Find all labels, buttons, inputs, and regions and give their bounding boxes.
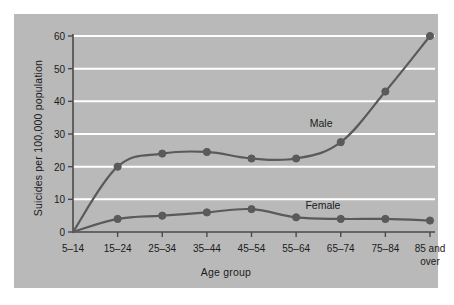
data-point-female-1 [114, 215, 121, 222]
series-annotation-male: Male [310, 117, 333, 129]
data-point-male-6 [337, 139, 344, 146]
data-point-female-7 [382, 215, 389, 222]
data-point-female-2 [159, 212, 166, 219]
series-annotation-female: Female [305, 199, 340, 211]
data-point-male-8 [426, 32, 433, 39]
x-tick-label: 85 andover [400, 242, 454, 268]
y-tick-label: 0 [25, 227, 65, 238]
data-point-male-3 [203, 148, 210, 155]
data-point-male-2 [159, 150, 166, 157]
y-tick-label: 50 [25, 63, 65, 74]
chart-panel: Suicides per 100,000 population Age grou… [14, 14, 438, 288]
y-tick-label: 60 [25, 31, 65, 42]
data-point-female-6 [337, 215, 344, 222]
series-marker-group [114, 32, 434, 224]
data-point-female-8 [426, 217, 433, 224]
data-point-male-5 [293, 155, 300, 162]
x-tick-label-line: 85 and [400, 242, 454, 255]
data-point-male-4 [248, 155, 255, 162]
x-axis-title: Age group [14, 266, 438, 278]
data-point-female-5 [293, 214, 300, 221]
x-tick-label-line: over [400, 255, 454, 268]
data-point-male-1 [114, 163, 121, 170]
data-point-female-4 [248, 206, 255, 213]
y-tick-label: 40 [25, 96, 65, 107]
y-tick-label: 30 [25, 129, 65, 140]
chart-figure: Suicides per 100,000 population Age grou… [0, 0, 454, 305]
data-point-male-7 [382, 88, 389, 95]
gridline-group [73, 36, 435, 199]
y-tick-label: 10 [25, 194, 65, 205]
data-point-female-3 [203, 209, 210, 216]
y-tick-label: 20 [25, 161, 65, 172]
